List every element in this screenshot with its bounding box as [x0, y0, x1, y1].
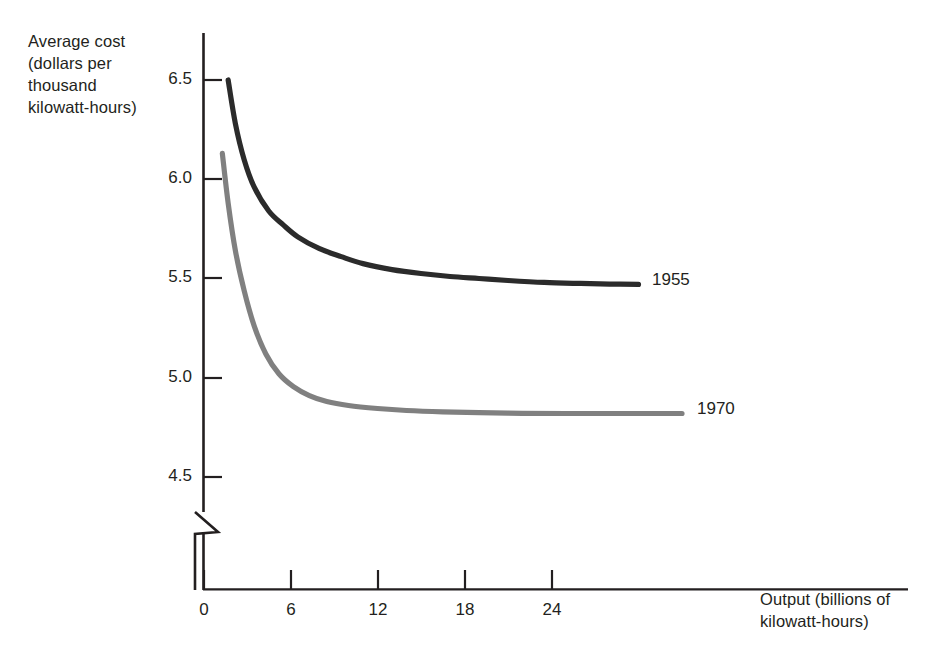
y-axis-ticks [203, 80, 222, 477]
y-tick-label-4-5: 4.5 [140, 466, 192, 486]
series-label-1955: 1955 [652, 270, 690, 290]
x-tick-label-6: 6 [271, 600, 311, 620]
x-tick-label-12: 12 [358, 600, 398, 620]
y-tick-label-5-5: 5.5 [140, 267, 192, 287]
x-tick-label-0: 0 [184, 600, 224, 620]
y-tick-label-5-0: 5.0 [140, 367, 192, 387]
series-line-1955 [228, 80, 638, 284]
x-axis-ticks [204, 570, 552, 589]
chart-figure: Average cost (dollars per thousand kilow… [0, 0, 937, 649]
y-tick-label-6-5: 6.5 [140, 69, 192, 89]
x-tick-label-24: 24 [532, 600, 572, 620]
axis-break-zigzag [195, 512, 218, 590]
x-tick-label-18: 18 [445, 600, 485, 620]
series-label-1970: 1970 [697, 399, 735, 419]
y-tick-label-6-0: 6.0 [140, 168, 192, 188]
x-axis-title: Output (billions of kilowatt-hours) [760, 588, 937, 632]
